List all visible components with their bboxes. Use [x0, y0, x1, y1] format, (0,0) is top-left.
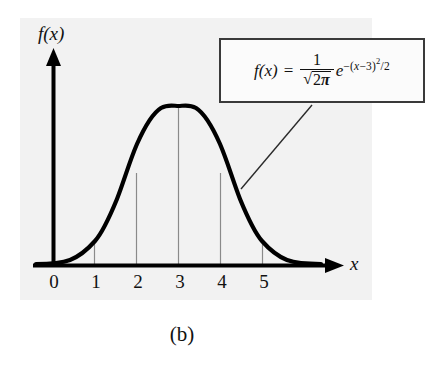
- formula-exponent: −(x−3)2/2: [343, 60, 390, 72]
- x-tick-label-4: 4: [212, 271, 232, 293]
- x-tick-label-1: 1: [86, 271, 106, 293]
- figure-caption: (b): [152, 322, 212, 347]
- formula-expression: f(x) = 1 √ 2π e−(x−3)2/2: [254, 52, 390, 89]
- y-axis-label: f(x): [38, 23, 64, 45]
- figure-container: f(x) x 0 1 2 3 4 5 f(x) = 1 √ 2π: [0, 0, 447, 367]
- y-axis-arrowhead: [46, 48, 61, 66]
- formula-denominator-two: 2: [313, 71, 321, 88]
- exponent-divisor: /2: [381, 60, 390, 72]
- formula-function-name: f(x): [254, 62, 278, 79]
- x-axis-label: x: [350, 253, 358, 275]
- x-tick-label-0: 0: [44, 271, 64, 293]
- formula-denominator: √ 2π: [300, 70, 334, 89]
- annotation-leader-line: [241, 105, 312, 189]
- formula-numerator: 1: [310, 52, 324, 69]
- formula-annotation-box: f(x) = 1 √ 2π e−(x−3)2/2: [219, 38, 425, 103]
- radical-sign-icon: √: [303, 71, 312, 88]
- formula-denominator-pi: π: [321, 71, 330, 88]
- x-tick-label-5: 5: [254, 271, 274, 293]
- exponent-power: 2: [376, 56, 380, 66]
- formula-e-base: e−(x−3)2/2: [336, 62, 390, 79]
- y-axis: [46, 48, 61, 265]
- x-tick-label-3: 3: [170, 271, 190, 293]
- formula-equals-sign: =: [284, 62, 294, 79]
- radical-body: 2π: [312, 71, 331, 89]
- formula-radical: √ 2π: [303, 71, 331, 89]
- x-tick-label-2: 2: [128, 271, 148, 293]
- formula-fraction: 1 √ 2π: [300, 52, 334, 89]
- x-axis-arrowhead: [325, 258, 344, 273]
